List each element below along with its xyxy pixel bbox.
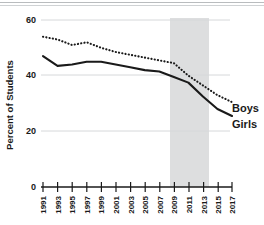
- series-label-girls: Girls: [232, 118, 257, 130]
- xtick-label-1999: 1999: [97, 195, 106, 213]
- xtick-label-2011: 2011: [185, 195, 194, 213]
- xtick-label-1997: 1997: [83, 195, 92, 213]
- xtick-label-2007: 2007: [156, 195, 165, 213]
- xtick-label-1993: 1993: [54, 195, 63, 213]
- chart-figure: 60 40 20 0 Percent of Students 1991 1993…: [0, 0, 264, 225]
- ytick-label-0: 0: [31, 182, 36, 192]
- shaded-period-band: [170, 18, 209, 187]
- ytick-label-40: 40: [26, 70, 36, 80]
- xtick-label-2015: 2015: [214, 195, 223, 213]
- xtick-label-2005: 2005: [141, 195, 150, 213]
- xtick-label-1995: 1995: [68, 195, 77, 213]
- line-chart-canvas: 60 40 20 0 Percent of Students 1991 1993…: [0, 0, 264, 225]
- y-axis-title: Percent of Students: [4, 60, 15, 150]
- xtick-label-2013: 2013: [200, 195, 209, 213]
- xtick-label-2009: 2009: [170, 195, 179, 213]
- xtick-label-1991: 1991: [39, 195, 48, 213]
- ytick-label-60: 60: [26, 15, 36, 25]
- ytick-label-20: 20: [26, 126, 36, 136]
- xtick-label-2003: 2003: [127, 195, 136, 213]
- series-label-boys: Boys: [232, 102, 259, 114]
- xtick-label-2017: 2017: [228, 195, 237, 213]
- xtick-label-2001: 2001: [112, 195, 121, 213]
